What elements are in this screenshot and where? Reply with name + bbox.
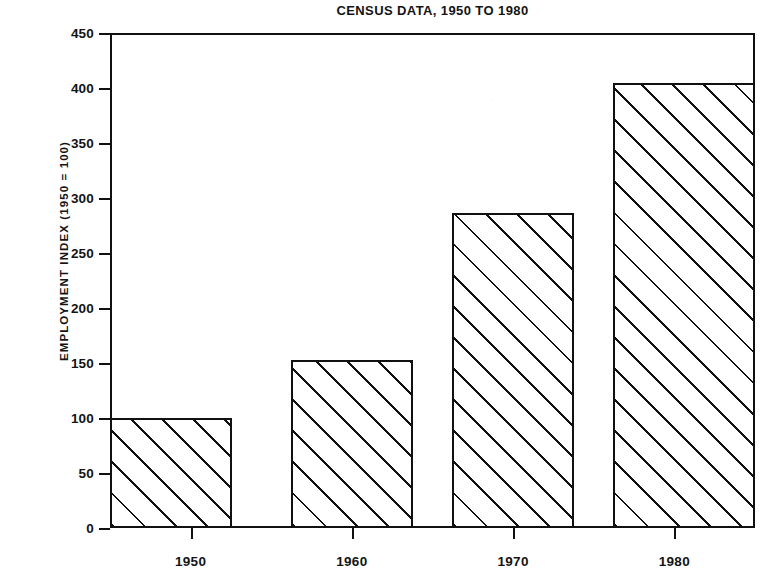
y-tick-mark <box>99 88 110 90</box>
x-tick-mark <box>674 528 676 539</box>
y-tick-label: 100 <box>71 411 94 426</box>
bar-1980 <box>613 83 755 529</box>
y-tick-label: 250 <box>71 246 94 261</box>
y-tick-mark <box>99 253 110 255</box>
y-tick-label: 300 <box>71 191 94 206</box>
x-tick-mark <box>352 528 354 539</box>
y-tick-label: 0 <box>86 521 94 536</box>
y-tick-mark <box>99 418 110 420</box>
bar-1950 <box>110 418 232 528</box>
x-tick-label: 1950 <box>175 554 206 569</box>
y-tick-mark <box>99 363 110 365</box>
y-tick-label: 200 <box>71 301 94 316</box>
x-tick-label: 1960 <box>336 554 367 569</box>
y-axis-title: EMPLOYMENT INDEX (1950 = 100) <box>58 61 70 441</box>
y-tick-mark <box>99 473 110 475</box>
y-tick-mark <box>99 528 110 530</box>
x-tick-mark <box>191 528 193 539</box>
y-tick-mark <box>99 143 110 145</box>
y-tick-label: 400 <box>71 81 94 96</box>
x-tick-mark <box>513 528 515 539</box>
plot-area: 050100150200250300350400450 195019601970… <box>110 33 755 528</box>
bar-1960 <box>291 360 413 528</box>
x-tick-label: 1970 <box>498 554 529 569</box>
y-tick-label: 350 <box>71 136 94 151</box>
x-tick-label: 1980 <box>659 554 690 569</box>
chart-figure: CENSUS DATA, 1950 TO 1980 EMPLOYMENT IND… <box>0 0 765 574</box>
y-tick-mark <box>99 308 110 310</box>
bar-1970 <box>452 213 574 528</box>
y-tick-mark <box>99 198 110 200</box>
y-tick-mark <box>99 33 110 35</box>
chart-title: CENSUS DATA, 1950 TO 1980 <box>110 3 755 18</box>
y-tick-label: 450 <box>71 26 94 41</box>
y-tick-label: 50 <box>79 466 94 481</box>
y-tick-label: 150 <box>71 356 94 371</box>
